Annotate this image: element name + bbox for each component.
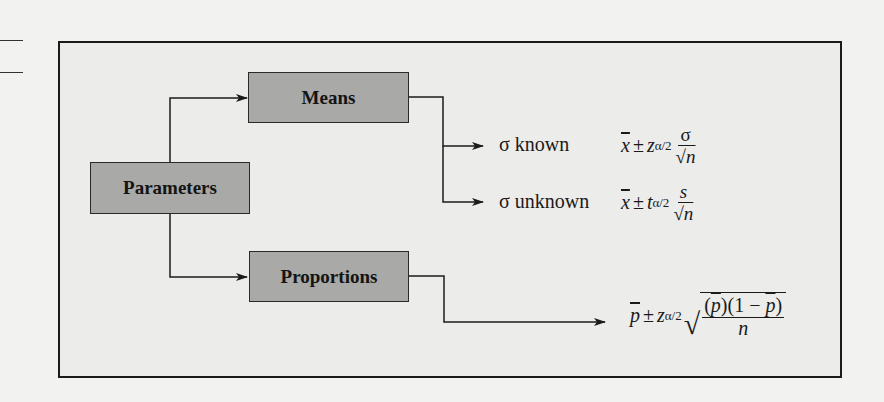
subscript: α/2 [652, 195, 669, 211]
sqrt-icon: √ [673, 203, 683, 224]
arrow-to-sigma-unknown [443, 146, 483, 202]
critical-value: z [657, 304, 665, 327]
sqrt-icon: √ [676, 146, 686, 167]
p-bar: p [711, 294, 721, 316]
n-var: n [684, 203, 694, 224]
parameters-label: Parameters [123, 177, 217, 199]
numerator: s [678, 182, 689, 203]
p-bar: p [630, 304, 640, 327]
sigma-known-label: σ known [499, 133, 569, 156]
plus-minus: ± [643, 304, 654, 327]
numerator: σ [678, 125, 692, 146]
n-var: n [686, 146, 696, 167]
arrow-to-sigma-known [408, 97, 483, 146]
fraction: σ √n [676, 125, 696, 166]
paren-close: ) [775, 294, 782, 316]
plus-minus: ± [633, 191, 644, 214]
denominator: √n [673, 203, 693, 223]
numerator: (p)(1 − p) [702, 293, 784, 318]
means-node: Means [248, 72, 409, 123]
plus-minus: ± [633, 134, 644, 157]
sigma-known-formula: x ± zα/2 σ √n [621, 125, 696, 166]
fraction: s √n [673, 182, 693, 223]
subscript: α/2 [655, 138, 672, 154]
radicand: (p)(1 − p) n [700, 292, 786, 339]
arrow-to-proportions [170, 213, 247, 277]
square-root: √ (p)(1 − p) n [684, 292, 786, 339]
sigma-unknown-formula: x ± tα/2 s √n [621, 182, 693, 223]
proportions-node: Proportions [249, 251, 409, 302]
proportion-formula: p ± zα/2 √ (p)(1 − p) n [630, 292, 786, 339]
x-bar: x [621, 191, 630, 214]
p-bar: p [765, 294, 775, 316]
denominator: √n [676, 146, 696, 166]
x-bar: x [621, 134, 630, 157]
sigma-unknown-label: σ unknown [499, 190, 589, 213]
means-label: Means [302, 87, 356, 109]
denominator: n [738, 318, 748, 339]
arrow-to-proportion-formula [408, 276, 605, 322]
proportions-label: Proportions [281, 266, 378, 288]
sqrt-icon: √ [684, 309, 700, 339]
critical-value: z [647, 134, 655, 157]
middle-term: )(1 − [721, 294, 766, 316]
subscript: α/2 [665, 308, 682, 324]
arrow-to-means [170, 98, 247, 163]
parameters-node: Parameters [90, 162, 250, 214]
paren-open: ( [704, 294, 711, 316]
